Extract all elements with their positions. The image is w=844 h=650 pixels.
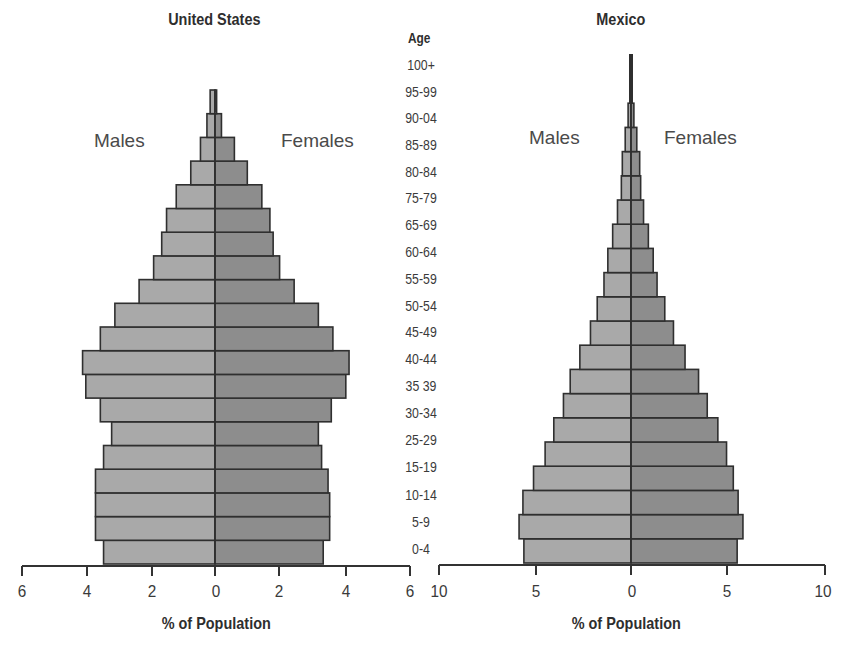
us-male-bar: [200, 137, 215, 161]
population-pyramids-figure: United States Males Females 6 4 2 0 2 4 …: [0, 0, 844, 650]
mexico-female-bar: [631, 418, 718, 442]
mexico-tick-label: 10: [426, 582, 453, 602]
mexico-female-bar: [631, 539, 737, 563]
mexico-females-label: Females: [664, 127, 737, 149]
us-female-bar: [215, 137, 234, 161]
us-male-bar: [112, 422, 215, 446]
us-tick-label: 2: [266, 582, 293, 602]
age-label: 25-29: [392, 431, 449, 448]
age-label: 40-44: [392, 350, 449, 367]
mexico-female-bar: [631, 127, 637, 151]
mexico-male-bar: [613, 224, 631, 248]
us-tick-label: 2: [139, 582, 166, 602]
mexico-tick-label: 0: [619, 582, 646, 602]
age-label: 80-84: [392, 163, 449, 180]
us-male-bar: [162, 232, 215, 256]
mexico-males-label: Males: [529, 127, 580, 149]
mexico-female-bar: [631, 297, 665, 321]
mexico-tick-label: 10: [810, 582, 837, 602]
us-male-bar: [100, 398, 215, 422]
us-male-bar: [191, 161, 215, 185]
mexico-female-bar: [631, 152, 640, 176]
us-male-bar: [167, 209, 215, 233]
mexico-female-bar: [631, 273, 657, 297]
us-male-bar: [207, 114, 215, 138]
age-label: 45-49: [392, 323, 449, 340]
age-label: 10-14: [392, 486, 449, 503]
mexico-chart-title: Mexico: [596, 10, 645, 30]
mexico-male-bar: [622, 152, 631, 176]
age-label: 15-19: [392, 458, 449, 475]
us-female-bar: [215, 280, 294, 304]
mexico-male-bar: [563, 394, 631, 418]
us-female-bar: [215, 517, 330, 541]
mexico-female-bar: [631, 200, 644, 224]
us-females-label: Females: [281, 130, 354, 152]
us-male-bar: [100, 327, 215, 351]
mexico-female-bar: [631, 490, 738, 514]
us-female-bar: [215, 374, 346, 398]
age-label: 50-54: [392, 297, 449, 314]
us-female-bar: [215, 493, 330, 517]
mexico-male-bar: [524, 539, 631, 563]
mexico-female-bar: [631, 442, 727, 466]
mexico-female-bar: [631, 466, 733, 490]
mexico-male-bar: [580, 345, 631, 369]
mexico-x-axis-title: % of Population: [572, 614, 681, 634]
us-males-label: Males: [94, 130, 145, 152]
mexico-female-bar: [631, 394, 707, 418]
us-male-bar: [154, 256, 215, 280]
us-male-bar: [104, 540, 215, 564]
us-x-axis-title: % of Population: [162, 614, 271, 634]
us-tick-label: 6: [397, 582, 424, 602]
mexico-male-bar: [545, 442, 631, 466]
age-label: 100+: [392, 56, 449, 73]
mexico-male-bar: [590, 321, 631, 345]
mexico-male-bar: [604, 273, 631, 297]
us-tick-label: 4: [74, 582, 101, 602]
mexico-tick-label: 5: [523, 582, 550, 602]
us-tick-label: 0: [203, 582, 230, 602]
us-female-bar: [215, 209, 270, 233]
mexico-female-bar: [631, 224, 648, 248]
mexico-male-bar: [625, 127, 631, 151]
age-label: 60-64: [392, 243, 449, 260]
us-male-bar: [139, 280, 215, 304]
us-female-bar: [215, 327, 333, 351]
age-label: 95-99: [392, 83, 449, 100]
us-male-bar: [95, 493, 215, 517]
age-label: 75-79: [392, 189, 449, 206]
age-label: 55-59: [392, 270, 449, 287]
mexico-male-bar: [617, 200, 631, 224]
age-axis-heading: Age: [408, 30, 430, 46]
mexico-tick-label: 5: [714, 582, 741, 602]
age-label: 90-04: [392, 109, 449, 126]
mexico-female-bar: [631, 176, 641, 200]
age-label: 30-34: [392, 404, 449, 421]
age-label: 35 39: [392, 377, 449, 394]
mexico-male-bar: [570, 369, 631, 393]
us-female-bar: [215, 398, 331, 422]
mexico-female-bar: [631, 321, 673, 345]
us-female-bar: [215, 540, 323, 564]
age-label: 85-89: [392, 136, 449, 153]
mexico-female-bar: [631, 369, 699, 393]
us-male-bar: [176, 185, 215, 209]
us-female-bar: [215, 256, 280, 280]
us-male-bar: [83, 351, 215, 375]
mexico-male-bar: [534, 466, 631, 490]
us-male-bar: [95, 517, 215, 541]
mexico-female-bar: [631, 248, 653, 272]
age-label: 5-9: [392, 513, 449, 530]
mexico-male-bar: [608, 248, 631, 272]
us-female-bar: [215, 114, 221, 138]
mexico-male-bar: [621, 176, 631, 200]
us-male-bar: [95, 469, 215, 493]
us-female-bar: [215, 161, 247, 185]
us-female-bar: [215, 185, 262, 209]
us-tick-label: 4: [333, 582, 360, 602]
mexico-male-bar: [519, 515, 631, 539]
us-female-bar: [215, 446, 322, 470]
mexico-female-bar: [631, 345, 685, 369]
age-label: 0-4: [392, 540, 449, 557]
